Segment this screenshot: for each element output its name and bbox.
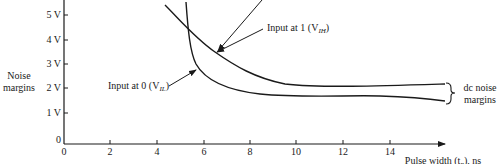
annotation-input-at-0: Input at 0 (VIL) xyxy=(108,80,169,93)
noise-margin-chart: Noise margins 0 1 V 2 V 3 V 4 V 5 V 0 2 … xyxy=(0,0,501,164)
y-tick-label: 0 xyxy=(56,134,61,145)
x-ticks: 0 2 4 6 8 10 12 14 xyxy=(62,140,396,157)
x-tick-label: 2 xyxy=(108,146,113,157)
annotation-dc-line1: dc noise xyxy=(463,82,497,93)
y-axis-title-line2: margins xyxy=(3,82,35,93)
x-tick-label: 8 xyxy=(248,146,253,157)
y-ticks: 0 1 V 2 V 3 V 4 V 5 V xyxy=(46,9,68,145)
x-tick-label: 14 xyxy=(385,146,395,157)
y-tick-label: 1 V xyxy=(46,107,61,118)
series-input-at-1-curve xyxy=(165,5,445,86)
x-axis-title: Pulse width (tp), ns xyxy=(405,155,481,164)
annotation-dc-line2: margins xyxy=(464,94,496,105)
x-tick-label: 0 xyxy=(62,146,67,157)
x-tick-label: 10 xyxy=(291,146,301,157)
arrow-input-at-1-line xyxy=(217,29,263,52)
x-tick-label: 12 xyxy=(338,146,348,157)
x-tick-label: 6 xyxy=(202,146,207,157)
y-tick-label: 4 V xyxy=(46,34,61,45)
brace-icon xyxy=(446,83,455,104)
y-tick-label: 3 V xyxy=(46,58,61,69)
y-axis-title-line1: Noise xyxy=(7,70,31,81)
x-tick-label: 4 xyxy=(155,146,160,157)
y-tick-label: 2 V xyxy=(46,82,61,93)
arrow-input-at-1 xyxy=(218,0,262,51)
y-tick-label: 5 V xyxy=(46,9,61,20)
arrow-input-at-0 xyxy=(169,70,196,86)
annotation-input-at-1: Input at 1 (VIH) xyxy=(267,22,329,35)
